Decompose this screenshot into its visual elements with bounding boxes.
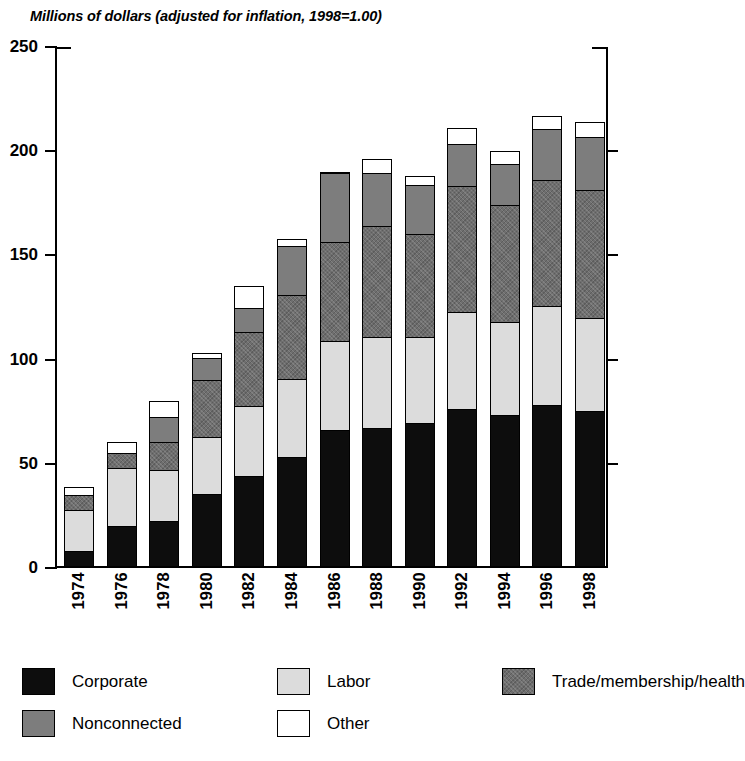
bar-segment-nonconnected[interactable]: [277, 246, 307, 296]
bar-segment-corporate[interactable]: [405, 423, 435, 567]
bar-1978[interactable]: [149, 401, 179, 566]
bar-1998[interactable]: [575, 122, 605, 566]
bar-segment-nonconnected[interactable]: [405, 185, 435, 235]
bar-segment-trade[interactable]: [149, 442, 179, 471]
bar-segment-corporate[interactable]: [447, 409, 477, 567]
bar-segment-corporate[interactable]: [234, 476, 264, 568]
legend-label-nonconnected: Nonconnected: [72, 714, 182, 734]
bar-1982[interactable]: [234, 286, 264, 566]
bar-segment-labor[interactable]: [192, 437, 222, 495]
legend-item-labor[interactable]: Labor: [277, 668, 370, 695]
bar-segment-other[interactable]: [362, 159, 392, 174]
legend-item-corporate[interactable]: Corporate: [22, 668, 148, 695]
bar-segment-trade[interactable]: [64, 495, 94, 512]
bar-segment-corporate[interactable]: [320, 430, 350, 568]
bar-segment-corporate[interactable]: [575, 411, 605, 567]
bar-segment-trade[interactable]: [277, 295, 307, 380]
x-axis-tick-label: 1996: [537, 572, 556, 610]
bar-segment-corporate[interactable]: [490, 415, 520, 567]
bar-segment-corporate[interactable]: [149, 521, 179, 567]
bar-segment-nonconnected[interactable]: [532, 129, 562, 181]
chart-title: Millions of dollars (adjusted for inflat…: [30, 8, 382, 24]
bar-segment-labor[interactable]: [405, 337, 435, 425]
y-axis-tick: [45, 254, 57, 256]
bar-1980[interactable]: [192, 353, 222, 566]
bar-segment-corporate[interactable]: [277, 457, 307, 567]
y-axis-tick: [45, 46, 57, 48]
y-axis-tick: [45, 150, 57, 152]
bar-segment-labor[interactable]: [107, 468, 137, 526]
bar-1974[interactable]: [64, 487, 94, 566]
bar-segment-other[interactable]: [575, 122, 605, 139]
bar-1994[interactable]: [490, 151, 520, 566]
bar-segment-labor[interactable]: [149, 470, 179, 522]
bar-1992[interactable]: [447, 128, 477, 566]
bar-segment-corporate[interactable]: [64, 551, 94, 568]
bar-1988[interactable]: [362, 159, 392, 566]
x-axis-tick-label: 1988: [367, 572, 386, 610]
x-axis-tick-label: 1978: [154, 572, 173, 610]
bar-segment-trade[interactable]: [234, 332, 264, 407]
y-axis-tick: [45, 567, 57, 569]
bar-segment-corporate[interactable]: [362, 428, 392, 568]
bar-segment-nonconnected[interactable]: [490, 164, 520, 206]
bar-segment-nonconnected[interactable]: [320, 173, 350, 244]
bar-segment-trade[interactable]: [532, 180, 562, 307]
x-axis-tick-label: 1998: [580, 572, 599, 610]
bar-segment-labor[interactable]: [575, 318, 605, 412]
bar-1996[interactable]: [532, 116, 562, 566]
bar-segment-nonconnected[interactable]: [447, 144, 477, 188]
bar-segment-labor[interactable]: [234, 406, 264, 477]
bar-1976[interactable]: [107, 442, 137, 566]
legend-swatch-other: [277, 710, 310, 737]
bar-segment-other[interactable]: [149, 401, 179, 418]
bar-segment-corporate[interactable]: [107, 526, 137, 568]
bar-segment-labor[interactable]: [320, 341, 350, 431]
bar-segment-trade[interactable]: [320, 242, 350, 342]
bar-segment-trade[interactable]: [490, 205, 520, 324]
bar-segment-labor[interactable]: [277, 379, 307, 458]
bar-segment-nonconnected[interactable]: [149, 417, 179, 444]
bar-segment-other[interactable]: [447, 128, 477, 145]
legend-swatch-labor: [277, 668, 310, 695]
bar-segment-corporate[interactable]: [532, 405, 562, 568]
bar-group: [57, 47, 608, 566]
bar-segment-trade[interactable]: [447, 186, 477, 313]
chart-legend: CorporateLaborTrade/membership/healthNon…: [22, 668, 612, 748]
bar-segment-trade[interactable]: [107, 453, 137, 470]
bar-segment-trade[interactable]: [575, 190, 605, 319]
bar-1984[interactable]: [277, 239, 307, 566]
bar-segment-other[interactable]: [532, 116, 562, 131]
legend-item-nonconnected[interactable]: Nonconnected: [22, 710, 182, 737]
legend-item-trade[interactable]: Trade/membership/health: [502, 668, 745, 695]
bar-segment-labor[interactable]: [362, 337, 392, 429]
x-axis-tick-label: 1986: [325, 572, 344, 610]
x-axis-tick-label: 1980: [197, 572, 216, 610]
legend-item-other[interactable]: Other: [277, 710, 370, 737]
bar-segment-labor[interactable]: [532, 306, 562, 406]
bar-segment-trade[interactable]: [192, 380, 222, 438]
x-axis-tick-label: 1984: [282, 572, 301, 610]
x-axis-tick-label: 1982: [239, 572, 258, 610]
bar-1990[interactable]: [405, 176, 435, 566]
bar-segment-corporate[interactable]: [192, 494, 222, 567]
bar-segment-nonconnected[interactable]: [192, 358, 222, 381]
legend-swatch-nonconnected: [22, 710, 55, 737]
bar-segment-labor[interactable]: [64, 510, 94, 552]
legend-label-other: Other: [327, 714, 370, 734]
bar-segment-trade[interactable]: [362, 226, 392, 339]
bar-segment-trade[interactable]: [405, 234, 435, 338]
bar-1986[interactable]: [320, 172, 350, 566]
legend-swatch-trade: [502, 668, 535, 695]
bar-segment-nonconnected[interactable]: [575, 137, 605, 191]
bar-segment-other[interactable]: [234, 286, 264, 309]
bar-segment-other[interactable]: [490, 151, 520, 166]
legend-label-labor: Labor: [327, 672, 370, 692]
x-axis-tick-label: 1994: [495, 572, 514, 610]
x-axis-tick-label: 1992: [452, 572, 471, 610]
bar-segment-nonconnected[interactable]: [234, 308, 264, 333]
bar-segment-labor[interactable]: [447, 312, 477, 410]
bar-segment-labor[interactable]: [490, 322, 520, 416]
bar-segment-nonconnected[interactable]: [362, 173, 392, 227]
